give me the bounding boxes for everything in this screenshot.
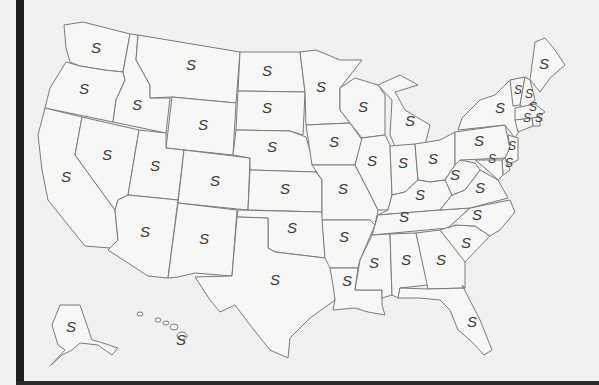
label-nv: S <box>102 146 112 163</box>
us-states-map: S S S S S S S S S S S S S S S S S S S S … <box>0 0 599 385</box>
label-wy: S <box>198 116 208 133</box>
label-ak: S <box>66 318 76 335</box>
label-nc: S <box>472 206 482 223</box>
label-wv: S <box>450 166 460 183</box>
state-fl[interactable] <box>398 285 492 355</box>
label-ut: S <box>150 157 160 174</box>
label-va: S <box>475 179 485 196</box>
label-nm: S <box>199 230 209 247</box>
label-mn: S <box>316 78 326 95</box>
label-in: S <box>398 154 408 171</box>
state-ak[interactable] <box>50 305 118 366</box>
label-me: S <box>539 55 549 72</box>
label-tx: S <box>270 271 280 288</box>
label-ar: S <box>339 228 349 245</box>
label-nh: S <box>525 87 533 101</box>
label-tn: S <box>399 208 409 225</box>
label-id: S <box>132 96 142 113</box>
label-ct: S <box>523 111 531 125</box>
label-nj: S <box>508 139 516 153</box>
label-oh: S <box>428 150 438 167</box>
label-fl: S <box>467 313 477 330</box>
label-wa: S <box>91 39 101 56</box>
label-wi: S <box>358 98 368 115</box>
label-ri: S <box>535 111 543 125</box>
label-mi: S <box>405 112 415 129</box>
label-ky: S <box>415 186 425 203</box>
label-sd: S <box>262 99 272 116</box>
label-de: S <box>505 156 513 170</box>
label-ms: S <box>369 254 379 271</box>
label-sc: S <box>461 234 471 251</box>
label-la: S <box>342 272 352 289</box>
label-il: S <box>367 152 377 169</box>
state-mi[interactable] <box>378 75 430 146</box>
label-ks: S <box>280 180 290 197</box>
label-mt: S <box>186 56 196 73</box>
label-al: S <box>401 251 411 268</box>
label-ca: S <box>61 168 71 185</box>
label-vt: S <box>514 83 522 97</box>
label-ny: S <box>495 99 505 116</box>
label-co: S <box>210 172 220 189</box>
label-ok: S <box>287 219 297 236</box>
label-az: S <box>140 223 150 240</box>
label-hi: S <box>176 331 186 348</box>
label-ia: S <box>329 133 339 150</box>
label-mo: S <box>338 180 348 197</box>
label-or: S <box>79 80 89 97</box>
label-nd: S <box>262 62 272 79</box>
label-md: S <box>488 152 496 166</box>
label-pa: S <box>474 132 484 149</box>
state-outlines <box>38 22 565 366</box>
label-ne: S <box>267 138 277 155</box>
label-ga: S <box>436 251 446 268</box>
